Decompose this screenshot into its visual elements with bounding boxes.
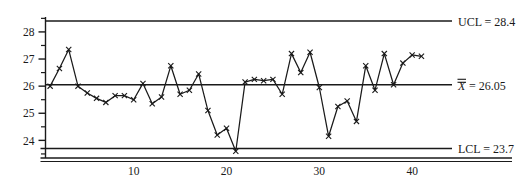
y-tick-label-27: 27 [23, 53, 35, 65]
x-tick-label-30: 30 [314, 165, 326, 177]
data-series-line [50, 50, 421, 152]
data-point-marker [215, 132, 220, 137]
control-chart-canvas: 2425262728UCL = 28.4X= 26.05LCL = 23.710… [0, 0, 520, 187]
data-point-marker [103, 100, 108, 105]
x-tick-label-40: 40 [406, 165, 418, 177]
data-point-marker [400, 60, 405, 65]
data-point-marker [298, 70, 303, 75]
data-point-marker [94, 96, 99, 101]
y-tick-label-26: 26 [23, 80, 35, 92]
y-tick-label-25: 25 [23, 107, 35, 119]
x-tick-label-20: 20 [221, 165, 233, 177]
data-point-marker [85, 90, 90, 95]
data-point-marker [187, 88, 192, 93]
data-point-marker [345, 98, 350, 103]
center-label-symbol: X [457, 79, 466, 93]
data-point-marker [57, 66, 62, 71]
control-chart: 2425262728UCL = 28.4X= 26.05LCL = 23.710… [0, 0, 520, 187]
data-point-markers [48, 47, 424, 154]
lcl-label: LCL = 23.7 [458, 142, 514, 156]
data-point-marker [224, 126, 229, 131]
x-tick-label-10: 10 [128, 165, 140, 177]
y-tick-label-28: 28 [23, 26, 35, 38]
y-tick-label-24: 24 [23, 135, 35, 147]
center-label-value: = 26.05 [469, 79, 506, 93]
data-point-marker [150, 101, 155, 106]
data-point-marker [131, 97, 136, 102]
ucl-label: UCL = 28.4 [458, 15, 515, 29]
